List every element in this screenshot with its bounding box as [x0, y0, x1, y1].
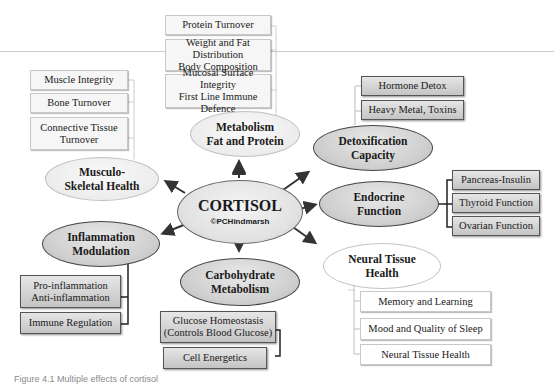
- neural-item-memory: Memory and Learning: [360, 291, 491, 312]
- item-text: Memory and Learning: [378, 296, 472, 308]
- item-text: Mucosal Surface Integrity: [166, 67, 270, 91]
- item-text: Connective Tissue: [40, 122, 117, 134]
- musculo-item-bone: Bone Turnover: [30, 93, 128, 113]
- neural-item-neural-tissue: Neural Tissue Health: [360, 344, 491, 365]
- musculo-item-connective: Connective Tissue Turnover: [30, 117, 128, 150]
- node-title: Endocrine: [353, 190, 404, 204]
- node-title: Modulation: [72, 244, 130, 258]
- node-title: Function: [357, 204, 401, 218]
- metabolism-item-protein-turnover: Protein Turnover: [165, 15, 271, 35]
- item-text: Bone Turnover: [47, 97, 110, 109]
- item-text: Mood and Quality of Sleep: [368, 323, 482, 335]
- item-text: Immune Regulation: [29, 317, 113, 329]
- center-title: CORTISOL: [198, 197, 282, 215]
- item-text: Muscle Integrity: [44, 74, 114, 86]
- node-carbohydrate: Carbohydrate Metabolism: [180, 258, 300, 306]
- detox-item-heavy-metal: Heavy Metal, Toxins: [361, 100, 464, 120]
- item-text: Thyroid Function: [459, 197, 533, 209]
- node-inflammation: Inflammation Modulation: [42, 221, 160, 267]
- endocrine-item-ovarian: Ovarian Function: [452, 216, 540, 236]
- copyright-credit: ©PCHindmarsh: [211, 217, 270, 227]
- inflammation-item-pro-anti: Pro-inflammation Anti-inflammation: [20, 275, 121, 308]
- figure-caption: Figure 4.1 Multiple effects of cortisol: [14, 374, 158, 384]
- node-metabolism: Metabolism Fat and Protein: [190, 111, 300, 157]
- endocrine-item-thyroid: Thyroid Function: [452, 193, 540, 213]
- carbohydrate-item-glucose: Glucose Homeostasis (Controls Blood Gluc…: [160, 311, 276, 343]
- musculo-item-muscle: Muscle Integrity: [30, 70, 128, 90]
- item-text: Glucose Homeostasis: [173, 315, 264, 327]
- node-endocrine: Endocrine Function: [319, 181, 439, 227]
- node-title: Musculo-: [79, 165, 125, 179]
- item-text: (Controls Blood Glucose): [164, 327, 273, 339]
- carbohydrate-item-cell-energetics: Cell Energetics: [163, 347, 267, 369]
- node-cortisol-center: CORTISOL ©PCHindmarsh: [177, 180, 303, 244]
- node-musculoskeletal: Musculo- Skeletal Health: [45, 157, 159, 201]
- item-text: Hormone Detox: [379, 80, 447, 92]
- item-text: Anti-inflammation: [31, 292, 110, 304]
- item-text: Cell Energetics: [183, 352, 247, 364]
- node-neural: Neural Tissue Health: [323, 243, 441, 289]
- item-text: Neural Tissue Health: [381, 349, 470, 361]
- inflammation-item-immune: Immune Regulation: [20, 312, 121, 334]
- node-title: Detoxification: [339, 134, 408, 148]
- item-text: Weight and Fat Distribution: [166, 37, 270, 61]
- node-title: Health: [365, 266, 398, 280]
- node-title: Skeletal Health: [64, 179, 139, 193]
- item-text: Pro-inflammation: [33, 280, 108, 292]
- node-detox: Detoxification Capacity: [313, 125, 433, 171]
- node-title: Metabolism: [216, 120, 274, 134]
- node-title: Carbohydrate: [205, 268, 275, 282]
- item-text: Protein Turnover: [182, 19, 253, 31]
- endocrine-item-pancreas: Pancreas-Insulin: [452, 170, 540, 190]
- item-text: Turnover: [60, 134, 99, 146]
- metabolism-item-mucosal: Mucosal Surface Integrity First Line Imm…: [165, 74, 271, 108]
- item-text: Ovarian Function: [459, 220, 533, 232]
- node-title: Capacity: [351, 148, 395, 162]
- neural-item-mood-sleep: Mood and Quality of Sleep: [360, 318, 491, 340]
- node-title: Neural Tissue: [348, 252, 416, 266]
- item-text: Pancreas-Insulin: [461, 174, 531, 186]
- node-title: Fat and Protein: [206, 134, 283, 148]
- item-text: Heavy Metal, Toxins: [368, 104, 456, 116]
- node-title: Metabolism: [211, 282, 269, 296]
- detox-item-hormone: Hormone Detox: [361, 76, 464, 96]
- node-title: Inflammation: [67, 230, 135, 244]
